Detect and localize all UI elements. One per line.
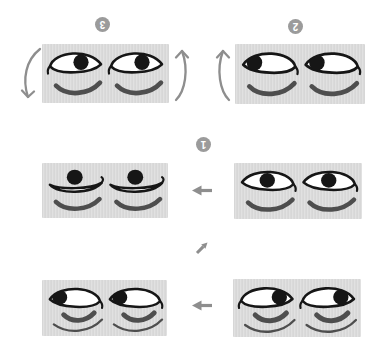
rotate-up-arrow-icon	[172, 48, 192, 102]
step-3-badge: 3	[95, 17, 110, 32]
left-arrow-icon	[192, 300, 213, 311]
eye-card-step-1	[234, 163, 362, 219]
eye-pair-drawing	[42, 44, 169, 103]
eye-pair-drawing	[42, 163, 168, 218]
eye-pair-drawing	[42, 280, 167, 336]
eye-pair-drawing	[234, 163, 362, 219]
up-right-arrow-icon	[194, 241, 210, 255]
diagram-figure: 3 2 1	[0, 0, 384, 352]
eye-card-start-left	[42, 280, 167, 336]
step-2-number: 2	[293, 21, 299, 32]
step-1-badge: 1	[196, 137, 211, 152]
eye-card-start-right	[233, 279, 361, 337]
eye-card-result	[42, 163, 168, 218]
step-2-badge: 2	[288, 19, 303, 34]
left-arrow-icon	[192, 185, 213, 196]
eye-card-step-2	[235, 44, 365, 104]
step-3-number: 3	[100, 19, 106, 30]
eye-pair-drawing	[235, 44, 365, 104]
rotate-down-arrow-icon	[20, 47, 42, 102]
eye-card-step-3	[42, 44, 169, 103]
step-1-number: 1	[201, 139, 207, 150]
rotate-up-arrow-icon	[213, 48, 233, 102]
eye-pair-drawing	[233, 279, 361, 337]
